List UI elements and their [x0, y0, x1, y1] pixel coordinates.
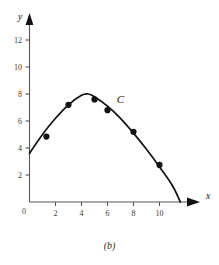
y-tick-label-12: 12: [14, 36, 22, 45]
data-point-group: [43, 96, 162, 168]
x-tick-label-8: 8: [132, 209, 136, 218]
data-point: [104, 107, 110, 113]
curve-label-c: C: [117, 93, 125, 105]
origin-label: 0: [22, 207, 26, 216]
x-axis-label: x: [205, 191, 211, 201]
x-tick-label-6: 6: [106, 209, 110, 218]
x-tick-label-10: 10: [156, 209, 164, 218]
figure-caption: (b): [0, 240, 219, 251]
figure-panel-b: 12 10 8 6 4 2 0 2 4 6 8 10 y x C (b): [0, 0, 219, 265]
y-tick-label-8: 8: [18, 90, 22, 99]
data-point: [65, 102, 71, 108]
scatter-plot: 12 10 8 6 4 2 0 2 4 6 8 10 y x C: [0, 0, 219, 240]
y-axis-arrow-icon: [26, 13, 34, 25]
x-tick-label-2: 2: [54, 209, 58, 218]
y-tick-label-4: 4: [18, 144, 22, 153]
data-point: [156, 162, 162, 168]
x-axis-arrow-icon: [187, 198, 200, 207]
data-point: [43, 133, 49, 139]
y-tick-label-2: 2: [18, 171, 22, 180]
y-tick-label-6: 6: [18, 117, 22, 126]
data-point: [91, 96, 97, 102]
x-axis-ticks: [56, 202, 160, 206]
y-tick-label-10: 10: [14, 63, 22, 72]
y-axis-ticks: [26, 40, 30, 175]
x-tick-label-4: 4: [80, 209, 84, 218]
y-axis-label: y: [17, 12, 23, 22]
data-point: [130, 129, 136, 135]
